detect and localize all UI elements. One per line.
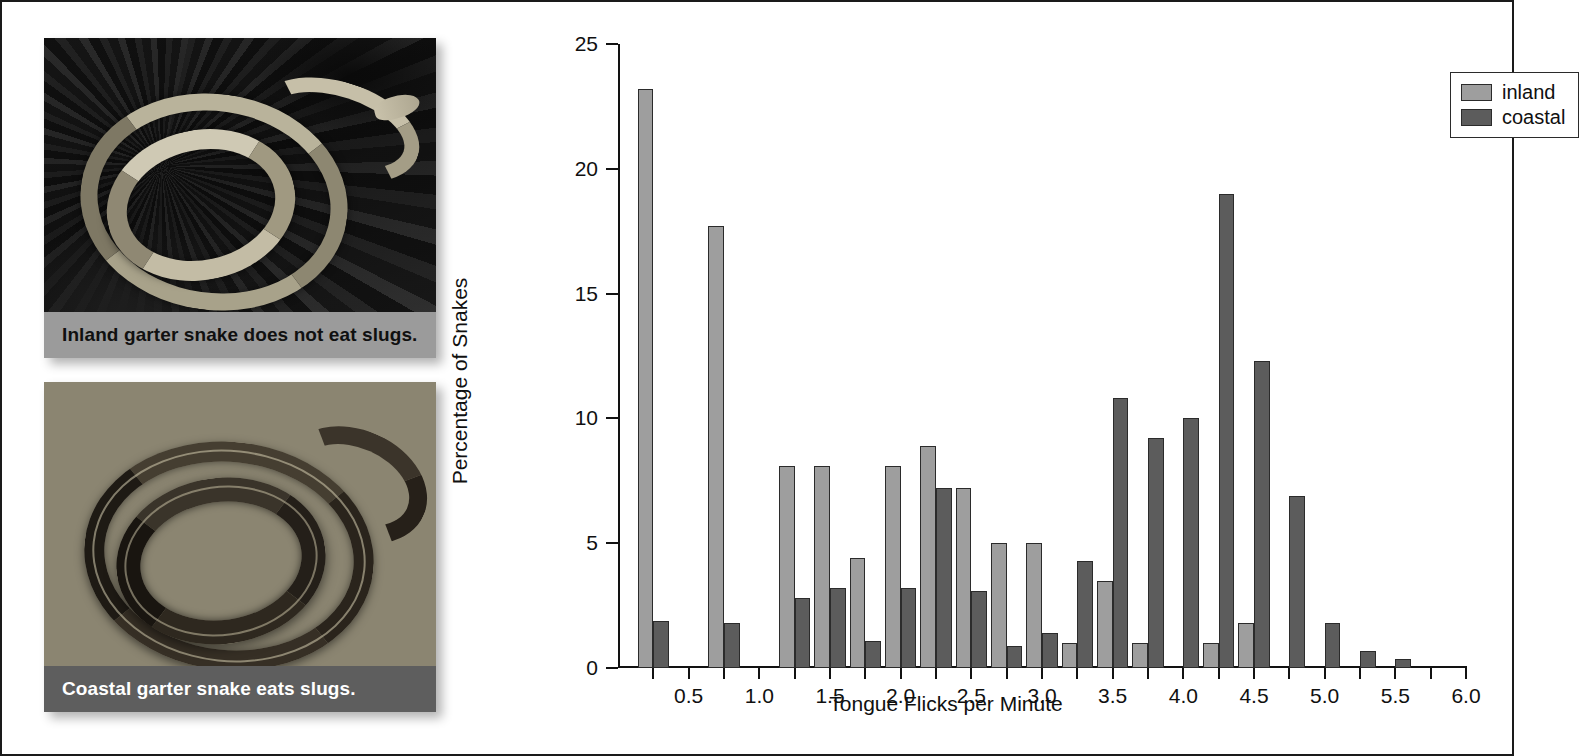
bar-coastal <box>1113 398 1129 668</box>
bar-coastal <box>795 598 811 668</box>
x-tick <box>1359 668 1361 679</box>
bar-coastal <box>653 621 669 668</box>
x-tick-label: 1.0 <box>745 684 774 708</box>
bar-inland <box>779 466 795 668</box>
bar-inland <box>991 543 1007 668</box>
bar-coastal <box>1148 438 1164 668</box>
y-tick: 15 <box>606 293 618 295</box>
y-tick-label: 25 <box>575 32 598 56</box>
bar-inland <box>1097 581 1113 668</box>
photo-card-coastal: Coastal garter snake eats slugs. <box>44 382 436 712</box>
coastal-garter-snake-photo: Coastal garter snake eats slugs. <box>44 382 436 712</box>
bar-coastal <box>865 641 881 668</box>
x-tick <box>1147 668 1149 679</box>
chart-legend: inland coastal <box>1450 72 1579 138</box>
y-axis-line <box>618 44 620 668</box>
y-tick-label: 20 <box>575 157 598 181</box>
y-tick: 25 <box>606 43 618 45</box>
bar-coastal <box>1042 633 1058 668</box>
x-tick <box>1006 668 1008 679</box>
y-tick-label: 15 <box>575 282 598 306</box>
bar-coastal <box>1183 418 1199 668</box>
bar-inland <box>708 226 724 668</box>
x-tick <box>794 668 796 679</box>
bar-coastal <box>901 588 917 668</box>
bar-inland <box>814 466 830 668</box>
legend-label-inland: inland <box>1502 81 1555 104</box>
y-tick-label: 5 <box>586 531 598 555</box>
bar-coastal <box>724 623 740 668</box>
bar-coastal <box>971 591 987 668</box>
y-tick-label: 0 <box>586 656 598 680</box>
x-tick <box>1430 668 1432 679</box>
x-tick <box>864 668 866 679</box>
photo-caption-coastal: Coastal garter snake eats slugs. <box>44 666 436 712</box>
x-tick <box>723 668 725 679</box>
x-tick <box>935 668 937 679</box>
x-tick <box>1288 668 1290 679</box>
bar-inland <box>1062 643 1078 668</box>
histogram-chart: 0510152025 0.51.01.52.02.53.03.54.04.55.… <box>522 20 1498 742</box>
bar-inland <box>1026 543 1042 668</box>
bar-inland <box>885 466 901 668</box>
bar-coastal <box>936 488 952 668</box>
bar-inland <box>1238 623 1254 668</box>
x-tick <box>652 668 654 679</box>
legend-label-coastal: coastal <box>1502 106 1565 129</box>
legend-item-inland: inland <box>1461 80 1565 105</box>
legend-swatch-icon-inland <box>1461 84 1492 101</box>
bar-coastal <box>1360 651 1376 668</box>
photo-card-inland: Inland garter snake does not eat slugs. <box>44 38 436 358</box>
x-tick-label: 4.0 <box>1169 684 1198 708</box>
bar-coastal <box>1007 646 1023 668</box>
bar-coastal <box>1395 659 1411 668</box>
bar-coastal <box>1325 623 1341 668</box>
bar-coastal <box>830 588 846 668</box>
x-tick-label: 3.5 <box>1098 684 1127 708</box>
x-tick-label: 4.5 <box>1239 684 1268 708</box>
x-tick-label: 5.5 <box>1381 684 1410 708</box>
legend-item-coastal: coastal <box>1461 105 1565 130</box>
photo-caption-inland: Inland garter snake does not eat slugs. <box>44 312 436 358</box>
x-tick <box>1465 666 1467 679</box>
y-tick: 10 <box>606 417 618 419</box>
photo-column: Inland garter snake does not eat slugs. … <box>30 26 450 726</box>
bar-inland <box>638 89 654 668</box>
bar-coastal <box>1254 361 1270 668</box>
y-tick: 5 <box>606 542 618 544</box>
x-tick <box>1218 668 1220 679</box>
bar-inland <box>1132 643 1148 668</box>
bar-inland <box>956 488 972 668</box>
plot-area: 0510152025 0.51.01.52.02.53.03.54.04.55.… <box>618 44 1466 668</box>
y-tick: 0 <box>606 667 618 669</box>
bar-coastal <box>1219 194 1235 668</box>
bar-inland <box>850 558 866 668</box>
legend-swatch-icon-coastal <box>1461 109 1492 126</box>
x-axis-title: Tongue Flicks per Minute <box>829 692 1062 716</box>
x-tick-label: 6.0 <box>1451 684 1480 708</box>
bar-coastal <box>1077 561 1093 668</box>
bar-inland <box>920 446 936 668</box>
inland-garter-snake-photo: Inland garter snake does not eat slugs. <box>44 38 436 358</box>
y-tick-label: 10 <box>575 406 598 430</box>
x-tick <box>688 666 690 679</box>
x-tick <box>1076 668 1078 679</box>
bar-inland <box>1203 643 1219 668</box>
x-tick-label: 0.5 <box>674 684 703 708</box>
y-tick: 20 <box>606 168 618 170</box>
x-tick <box>758 666 760 679</box>
y-axis-title: Percentage of Snakes <box>448 278 472 485</box>
x-tick-label: 5.0 <box>1310 684 1339 708</box>
bar-coastal <box>1289 496 1305 668</box>
